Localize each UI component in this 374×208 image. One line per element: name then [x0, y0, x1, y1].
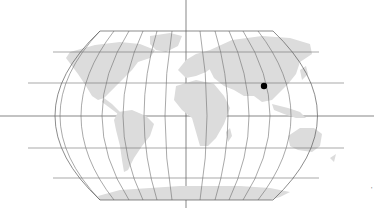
- africa: [174, 80, 230, 146]
- central-america: [102, 98, 122, 114]
- location-marker-icon[interactable]: [261, 83, 267, 89]
- world-map: ': [0, 0, 374, 208]
- greenland: [150, 33, 182, 52]
- australia: [288, 128, 322, 152]
- corner-mark: ': [371, 186, 372, 193]
- antarctica: [98, 186, 290, 200]
- japan: [300, 66, 308, 80]
- north-america: [66, 42, 155, 100]
- new-zealand: [330, 154, 336, 162]
- asia: [208, 36, 312, 102]
